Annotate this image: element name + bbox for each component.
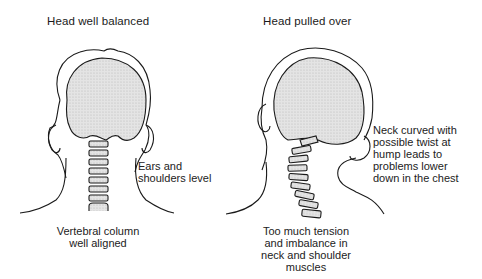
pulled-vertebrae [288,136,321,218]
balanced-vertebrae [89,141,108,211]
balanced-bottom-label: Vertebral column well aligned [48,225,148,249]
balanced-brain [66,58,146,140]
pulled-side-label: Neck curved with possible twist at hump … [373,124,459,184]
balanced-side-label: Ears and shoulders level [138,160,211,184]
balanced-figure [20,49,174,213]
pulled-brain [274,58,364,144]
balanced-title: Head well balanced [47,15,149,27]
pulled-left-neck-shoulder [226,162,267,214]
pulled-left-ear [258,104,270,132]
pulled-title: Head pulled over [263,15,352,27]
pulled-figure [226,48,384,218]
pulled-bottom-label: Too much tension and imbalance in neck a… [256,225,356,273]
balanced-left-neck-shoulder [20,158,66,213]
balanced-left-ear [49,125,60,153]
